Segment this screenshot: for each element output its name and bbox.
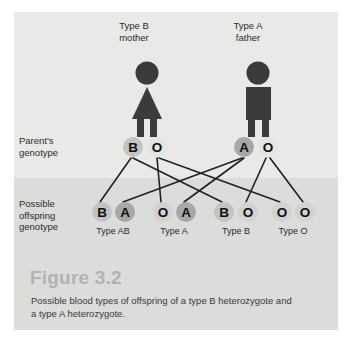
offspring-allele-o-O1: O	[272, 202, 292, 222]
parent-allele-mother-B: B	[123, 137, 143, 157]
offspring-allele-ab-B: B	[92, 202, 112, 222]
offspring-type-label-o: Type O	[263, 226, 323, 236]
connector-fatherA-offspringA	[184, 158, 244, 202]
offspring-allele-a-O: O	[153, 202, 173, 222]
parent-allele-father-A: A	[234, 137, 254, 157]
mother-pictogram	[132, 62, 162, 138]
connector-fatherO-offspringO2	[270, 158, 303, 202]
offspring-allele-ab-A: A	[115, 202, 135, 222]
inheritance-connectors	[100, 158, 303, 202]
offspring-type-label-a: Type A	[144, 226, 204, 236]
connector-fatherA-offspringAB	[123, 158, 242, 202]
connector-motherB-offspringAB	[100, 158, 131, 202]
figure-title: Figure 3.2	[30, 267, 122, 289]
parent-genotype-row-label: Parent's genotype	[19, 135, 97, 158]
offspring-type-label-b: Type B	[206, 226, 266, 236]
offspring-allele-b-B: B	[214, 202, 234, 222]
offspring-allele-a-A: A	[176, 202, 196, 222]
offspring-allele-o-O2: O	[295, 202, 315, 222]
offspring-type-label-ab: Type AB	[83, 226, 143, 236]
figure-panel: Type B mother Type A father Parent's gen…	[14, 12, 338, 330]
figure-caption: Possible blood types of offspring of a t…	[31, 295, 299, 320]
offspring-allele-b-O: O	[238, 202, 258, 222]
mother-heading: Type B mother	[98, 20, 170, 43]
father-heading: Type A father	[212, 20, 284, 43]
parent-allele-father-O: O	[258, 137, 278, 157]
connector-motherO-offspringA	[157, 158, 161, 202]
father-pictogram	[246, 62, 271, 138]
parent-allele-mother-O: O	[147, 137, 167, 157]
